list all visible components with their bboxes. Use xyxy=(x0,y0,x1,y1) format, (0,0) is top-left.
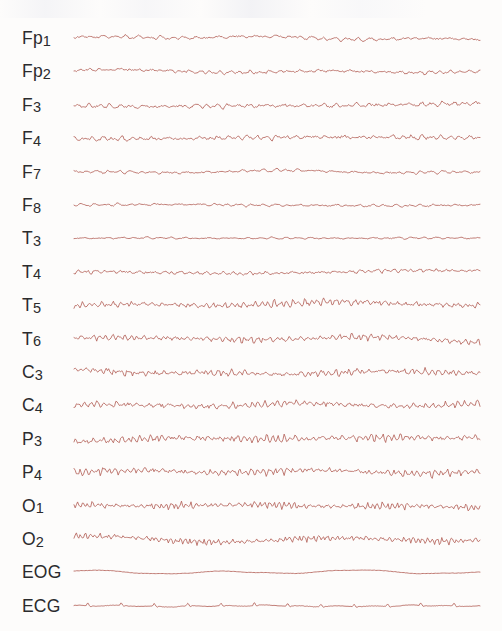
channel-label-f8: F8 xyxy=(22,188,41,222)
channel-label-t6: T6 xyxy=(22,322,41,356)
waveform-path xyxy=(74,298,480,308)
channel-label-p4: P4 xyxy=(22,455,42,489)
waveform-path xyxy=(74,237,480,240)
channel-trace-p3[interactable] xyxy=(74,422,480,456)
channel-trace-p4[interactable] xyxy=(74,455,480,489)
channel-trace-t5[interactable] xyxy=(74,288,480,322)
channel-label-ecg: ECG xyxy=(22,589,61,623)
channel-label-f7: F7 xyxy=(22,155,41,189)
channel-row-eog[interactable]: EOG xyxy=(0,555,502,589)
channel-trace-f3[interactable] xyxy=(74,88,480,122)
channel-row-f4[interactable]: F4 xyxy=(0,121,502,155)
channel-label-o2: O2 xyxy=(22,522,44,556)
channel-label-t3: T3 xyxy=(22,221,41,255)
waveform-path xyxy=(74,34,480,41)
channel-label-numeral: 3 xyxy=(34,433,42,449)
channel-label-c4: C4 xyxy=(22,388,43,422)
channel-trace-fp2[interactable] xyxy=(74,54,480,88)
channel-trace-t6[interactable] xyxy=(74,322,480,356)
channel-row-f7[interactable]: F7 xyxy=(0,155,502,189)
channel-trace-f4[interactable] xyxy=(74,121,480,155)
channel-trace-f8[interactable] xyxy=(74,188,480,222)
channel-label-f4: F4 xyxy=(22,121,41,155)
channel-row-p4[interactable]: P4 xyxy=(0,455,502,489)
waveform-path xyxy=(74,367,480,376)
channel-label-numeral: 3 xyxy=(35,367,43,383)
channel-label-numeral: 4 xyxy=(33,133,41,149)
channel-label-fp1: Fp1 xyxy=(22,21,51,55)
waveform-path xyxy=(74,269,480,275)
waveform-path xyxy=(74,434,480,443)
channel-trace-eog[interactable] xyxy=(74,555,480,589)
channel-row-o1[interactable]: O1 xyxy=(0,489,502,523)
channel-trace-ecg[interactable] xyxy=(74,589,480,623)
channel-label-numeral: 8 xyxy=(33,200,41,216)
channel-label-numeral: 7 xyxy=(33,166,41,182)
waveform-path xyxy=(74,168,480,174)
channel-row-t4[interactable]: T4 xyxy=(0,255,502,289)
channel-row-c4[interactable]: C4 xyxy=(0,388,502,422)
channel-label-f3: F3 xyxy=(22,88,41,122)
channel-label-numeral: 6 xyxy=(33,333,41,349)
channel-trace-o2[interactable] xyxy=(74,522,480,556)
channel-label-t4: T4 xyxy=(22,255,41,289)
waveform-path xyxy=(74,333,480,345)
channel-trace-t3[interactable] xyxy=(74,221,480,255)
waveform-path xyxy=(74,501,480,511)
channel-label-numeral: 2 xyxy=(43,66,51,82)
channel-row-c3[interactable]: C3 xyxy=(0,355,502,389)
channel-row-t5[interactable]: T5 xyxy=(0,288,502,322)
channel-label-t5: T5 xyxy=(22,288,41,322)
waveform-path xyxy=(74,468,480,479)
channel-label-numeral: 2 xyxy=(36,534,44,550)
waveform-path xyxy=(74,101,480,109)
waveform-path xyxy=(74,69,480,76)
channel-row-ecg[interactable]: ECG xyxy=(0,589,502,623)
paper-grain-texture xyxy=(0,0,502,18)
eeg-recording-page: Fp1Fp2F3F4F7F8T3T4T5T6C3C4P3P4O1O2EOGECG xyxy=(0,0,502,631)
waveform-path xyxy=(74,400,480,409)
channel-row-fp1[interactable]: Fp1 xyxy=(0,21,502,55)
channel-label-fp2: Fp2 xyxy=(22,54,51,88)
channel-row-fp2[interactable]: Fp2 xyxy=(0,54,502,88)
channel-label-numeral: 1 xyxy=(36,500,44,516)
channel-row-t6[interactable]: T6 xyxy=(0,322,502,356)
channel-row-p3[interactable]: P3 xyxy=(0,422,502,456)
channel-label-numeral: 1 xyxy=(43,33,51,49)
channel-trace-f7[interactable] xyxy=(74,155,480,189)
channel-trace-o1[interactable] xyxy=(74,489,480,523)
channel-label-c3: C3 xyxy=(22,355,43,389)
channel-trace-t4[interactable] xyxy=(74,255,480,289)
channel-label-numeral: 4 xyxy=(33,266,41,282)
channel-row-t3[interactable]: T3 xyxy=(0,221,502,255)
channel-label-numeral: 3 xyxy=(33,99,41,115)
waveform-path xyxy=(74,203,480,207)
channel-label-numeral: 4 xyxy=(34,467,42,483)
channel-row-f3[interactable]: F3 xyxy=(0,88,502,122)
channel-label-eog: EOG xyxy=(22,555,62,589)
channel-label-numeral: 4 xyxy=(35,400,43,416)
channel-label-numeral: 5 xyxy=(33,300,41,316)
waveform-path xyxy=(74,603,480,607)
channel-label-numeral: 3 xyxy=(33,233,41,249)
waveform-path xyxy=(74,135,480,142)
channel-row-f8[interactable]: F8 xyxy=(0,188,502,222)
waveform-path xyxy=(74,570,480,574)
channel-trace-c3[interactable] xyxy=(74,355,480,389)
channel-label-p3: P3 xyxy=(22,422,42,456)
channel-trace-fp1[interactable] xyxy=(74,21,480,55)
channel-label-o1: O1 xyxy=(22,489,44,523)
channel-row-o2[interactable]: O2 xyxy=(0,522,502,556)
channel-trace-c4[interactable] xyxy=(74,388,480,422)
waveform-path xyxy=(74,533,480,546)
